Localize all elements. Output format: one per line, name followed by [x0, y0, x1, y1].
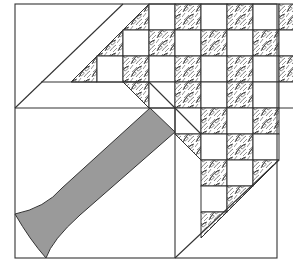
white-square	[253, 134, 279, 160]
leaf-print-square	[175, 4, 201, 30]
white-square	[149, 4, 175, 30]
leaf-print-square	[201, 30, 227, 56]
white-square	[149, 56, 175, 82]
leaf-print-square	[149, 30, 175, 56]
white-square	[253, 82, 279, 108]
leaf-print-square	[227, 56, 253, 82]
leaf-print-square	[253, 108, 279, 134]
leaf-print-square	[253, 30, 279, 56]
leaf-print-square	[175, 82, 201, 108]
white-square	[279, 82, 293, 108]
white-square	[97, 56, 123, 82]
white-square	[123, 30, 149, 56]
leaf-print-square	[201, 108, 227, 134]
leaf-print-square	[279, 56, 293, 82]
checkerboard-cells	[71, 4, 293, 238]
leaf-print-triangle	[201, 212, 227, 238]
white-square	[279, 30, 293, 56]
white-square	[253, 4, 279, 30]
leaf-print-square	[175, 56, 201, 82]
leaf-print-triangle	[97, 30, 123, 56]
leaf-print-triangle	[227, 186, 253, 212]
leaf-print-square	[123, 56, 149, 82]
white-square	[201, 134, 227, 160]
white-square	[253, 56, 279, 82]
white-square	[227, 160, 253, 186]
leaf-print-square	[227, 4, 253, 30]
leaf-print-triangle	[175, 134, 201, 160]
white-square	[201, 4, 227, 30]
leaf-print-triangle	[123, 4, 149, 30]
white-square	[227, 108, 253, 134]
white-square	[175, 30, 201, 56]
quilt-block-diagram	[0, 0, 293, 269]
quilt-block-svg	[0, 0, 293, 269]
gray-handle-shape	[15, 108, 175, 258]
white-square	[201, 56, 227, 82]
white-square	[201, 186, 227, 212]
leaf-print-square	[201, 160, 227, 186]
white-square	[227, 30, 253, 56]
leaf-print-triangle	[123, 82, 149, 108]
leaf-print-square	[227, 82, 253, 108]
white-square	[201, 82, 227, 108]
leaf-print-triangle	[71, 56, 97, 82]
leaf-print-square	[227, 134, 253, 160]
leaf-print-square	[279, 4, 293, 30]
